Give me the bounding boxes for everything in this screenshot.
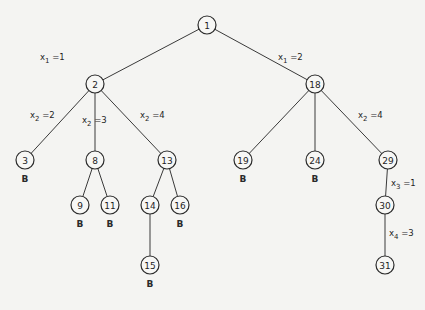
node-label: 9 (77, 201, 83, 211)
node-label: 14 (144, 201, 156, 211)
tree-node-29: 29 (379, 151, 397, 169)
edge-2-13 (101, 91, 161, 154)
tree-node-30: 30 (376, 196, 394, 214)
node-label: 31 (379, 261, 390, 271)
node-label: 3 (22, 156, 28, 166)
bounded-marker: B (240, 174, 247, 184)
tree-node-24: 24B (306, 151, 324, 184)
bounded-marker: B (312, 174, 319, 184)
node-label: 11 (104, 201, 115, 211)
edge-label-30-31: x4 =3 (389, 228, 414, 241)
node-label: 29 (382, 156, 394, 166)
edge-label-2-13: x2 =4 (140, 110, 165, 123)
tree-node-1: 1 (198, 16, 216, 34)
bounded-marker: B (147, 279, 154, 289)
edge-13-14 (153, 168, 164, 196)
edge-29-30 (386, 169, 388, 196)
tree-nodes: 12183B81319B24B299B11B1416B3015B31 (16, 16, 397, 289)
tree-node-18: 18 (306, 75, 324, 93)
tree-node-15: 15B (141, 256, 159, 289)
node-label: 30 (379, 201, 391, 211)
edge-label-1-18: x1 =2 (278, 52, 303, 65)
bounded-marker: B (77, 219, 84, 229)
edge-label-2-3: x2 =2 (30, 110, 55, 123)
tree-node-11: 11B (101, 196, 119, 229)
node-label: 1 (204, 21, 210, 31)
edge-label-1-2: x1 =1 (40, 52, 65, 65)
tree-node-19: 19B (234, 151, 252, 184)
tree-node-16: 16B (171, 196, 189, 229)
state-space-tree: x1 =1x1 =2x2 =2x2 =3x2 =4x2 =4x3 =1x4 =3… (0, 0, 425, 310)
node-label: 16 (174, 201, 186, 211)
node-label: 19 (237, 156, 249, 166)
edge-18-19 (249, 91, 309, 154)
edge-1-2 (103, 29, 199, 80)
edge-18-29 (321, 90, 382, 153)
tree-node-31: 31 (376, 256, 394, 274)
node-label: 18 (309, 80, 321, 90)
bounded-marker: B (107, 219, 114, 229)
edge-13-16 (169, 169, 177, 197)
tree-edges (31, 29, 387, 256)
node-label: 13 (161, 156, 172, 166)
edge-8-11 (98, 169, 107, 197)
bounded-marker: B (22, 174, 29, 184)
edge-label-29-30: x3 =1 (391, 178, 416, 191)
tree-node-8: 8 (86, 151, 104, 169)
node-label: 24 (309, 156, 321, 166)
edge-label-18-29: x2 =4 (358, 110, 383, 123)
tree-node-2: 2 (86, 75, 104, 93)
edge-8-9 (83, 169, 92, 197)
tree-node-3: 3B (16, 151, 34, 184)
tree-node-13: 13 (158, 151, 176, 169)
edge-2-3 (31, 91, 89, 154)
tree-node-9: 9B (71, 196, 89, 229)
bounded-marker: B (177, 219, 184, 229)
node-label: 15 (144, 261, 155, 271)
tree-node-14: 14 (141, 196, 159, 214)
node-label: 2 (92, 80, 98, 90)
node-label: 8 (92, 156, 98, 166)
edge-label-2-8: x2 =3 (82, 115, 107, 128)
